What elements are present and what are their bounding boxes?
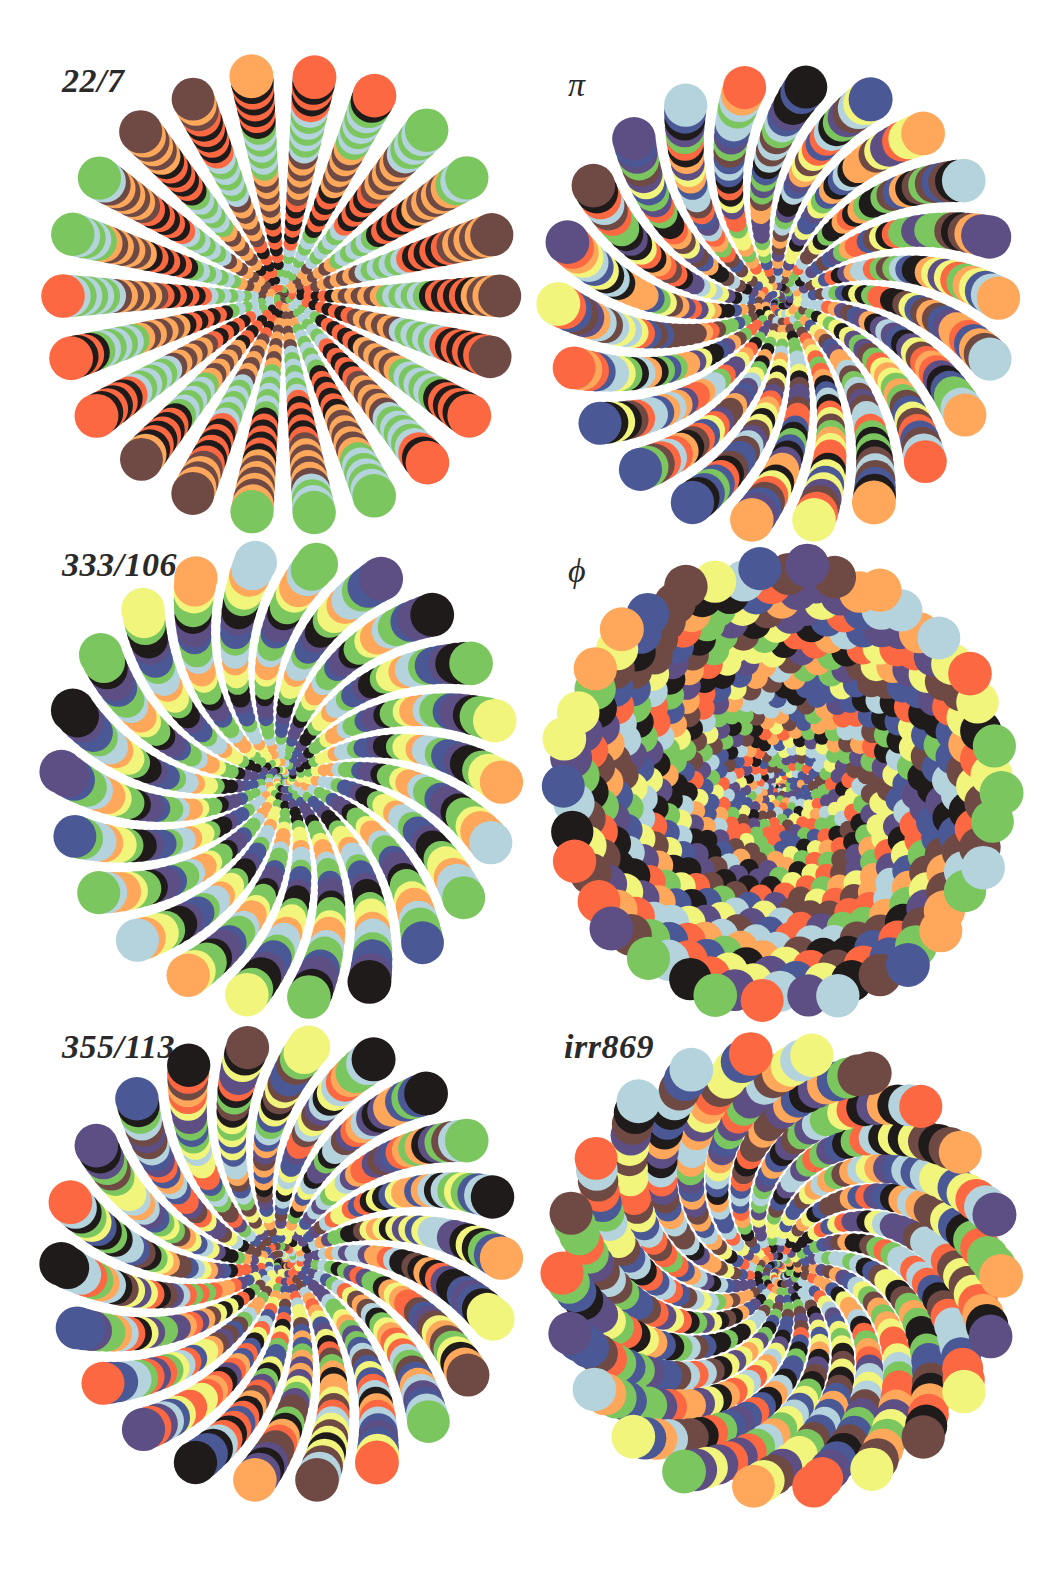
spiral-disc-irr869 xyxy=(528,1020,1032,1524)
spiral-disc-phi xyxy=(528,533,1032,1037)
spiral-disc-333-106 xyxy=(31,526,535,1030)
spiral-disc-355-113 xyxy=(31,1010,535,1514)
spiral-disc-22-7 xyxy=(31,44,535,548)
spiral-disc-pi xyxy=(528,50,1032,554)
